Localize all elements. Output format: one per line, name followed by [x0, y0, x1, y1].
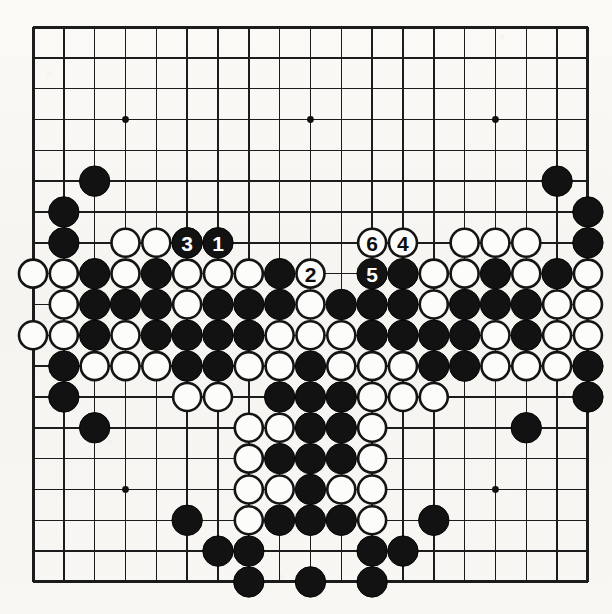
white-stone[interactable] — [327, 321, 355, 349]
white-stone[interactable] — [481, 229, 509, 257]
white-stone[interactable] — [50, 260, 78, 288]
white-stone[interactable] — [327, 352, 355, 380]
black-stone[interactable] — [295, 382, 325, 412]
white-stone[interactable] — [574, 321, 602, 349]
white-stone[interactable] — [481, 352, 509, 380]
white-stone[interactable] — [327, 475, 355, 503]
white-stone[interactable] — [358, 475, 386, 503]
white-stone[interactable] — [512, 352, 540, 380]
white-stone[interactable] — [420, 260, 448, 288]
black-stone[interactable] — [388, 289, 418, 319]
black-stone[interactable] — [264, 258, 294, 288]
white-stone[interactable] — [111, 321, 139, 349]
black-stone[interactable] — [480, 289, 510, 319]
black-stone[interactable] — [295, 443, 325, 473]
white-stone[interactable] — [235, 414, 263, 442]
white-stone[interactable] — [235, 506, 263, 534]
black-stone[interactable] — [264, 289, 294, 319]
white-stone[interactable] — [173, 260, 201, 288]
move-marker-6[interactable]: 6 — [358, 229, 386, 257]
white-stone[interactable] — [266, 475, 294, 503]
move-marker-4[interactable]: 4 — [389, 229, 417, 257]
white-stone[interactable] — [389, 383, 417, 411]
black-stone[interactable] — [511, 289, 541, 319]
black-stone[interactable] — [234, 536, 264, 566]
white-stone[interactable] — [358, 445, 386, 473]
black-stone[interactable] — [542, 166, 572, 196]
black-stone[interactable] — [172, 505, 202, 535]
black-stone[interactable] — [295, 413, 325, 443]
white-stone[interactable] — [543, 321, 571, 349]
black-stone[interactable] — [49, 197, 79, 227]
white-stone[interactable] — [19, 260, 47, 288]
black-stone[interactable] — [264, 505, 294, 535]
black-stone[interactable] — [203, 320, 233, 350]
white-stone[interactable] — [296, 321, 324, 349]
white-stone[interactable] — [235, 260, 263, 288]
white-stone[interactable] — [266, 321, 294, 349]
black-stone[interactable] — [295, 474, 325, 504]
black-stone[interactable] — [357, 536, 387, 566]
white-stone[interactable] — [389, 352, 417, 380]
move-marker-5[interactable]: 5 — [357, 258, 387, 288]
move-marker-1[interactable]: 1 — [203, 228, 233, 258]
black-stone[interactable] — [511, 413, 541, 443]
black-stone[interactable] — [79, 320, 109, 350]
black-stone[interactable] — [357, 289, 387, 319]
white-stone[interactable] — [173, 383, 201, 411]
black-stone[interactable] — [326, 413, 356, 443]
black-stone[interactable] — [264, 382, 294, 412]
white-stone[interactable] — [451, 260, 479, 288]
white-stone[interactable] — [574, 290, 602, 318]
white-stone[interactable] — [111, 352, 139, 380]
white-stone[interactable] — [512, 260, 540, 288]
white-stone[interactable] — [81, 352, 109, 380]
black-stone[interactable] — [388, 258, 418, 288]
white-stone[interactable] — [111, 260, 139, 288]
white-stone[interactable] — [296, 290, 324, 318]
black-stone[interactable] — [264, 443, 294, 473]
white-stone[interactable] — [266, 414, 294, 442]
white-stone[interactable] — [358, 383, 386, 411]
black-stone[interactable] — [234, 289, 264, 319]
white-stone[interactable] — [420, 290, 448, 318]
black-stone[interactable] — [295, 567, 325, 597]
black-stone[interactable] — [449, 351, 479, 381]
white-stone[interactable] — [235, 445, 263, 473]
black-stone[interactable] — [357, 567, 387, 597]
white-stone[interactable] — [574, 260, 602, 288]
black-stone[interactable] — [511, 320, 541, 350]
black-stone[interactable] — [480, 258, 510, 288]
white-stone[interactable] — [19, 321, 47, 349]
black-stone[interactable] — [141, 320, 171, 350]
black-stone[interactable] — [49, 382, 79, 412]
black-stone[interactable] — [326, 505, 356, 535]
white-stone[interactable] — [358, 414, 386, 442]
black-stone[interactable] — [573, 351, 603, 381]
white-stone[interactable] — [543, 290, 571, 318]
white-stone[interactable] — [142, 229, 170, 257]
black-stone[interactable] — [79, 258, 109, 288]
white-stone[interactable] — [512, 229, 540, 257]
white-stone[interactable] — [543, 352, 571, 380]
black-stone[interactable] — [295, 351, 325, 381]
black-stone[interactable] — [357, 320, 387, 350]
black-stone[interactable] — [203, 536, 233, 566]
white-stone[interactable] — [142, 352, 170, 380]
black-stone[interactable] — [172, 351, 202, 381]
black-stone[interactable] — [388, 320, 418, 350]
black-stone[interactable] — [449, 320, 479, 350]
black-stone[interactable] — [326, 289, 356, 319]
black-stone[interactable] — [542, 258, 572, 288]
white-stone[interactable] — [481, 321, 509, 349]
black-stone[interactable] — [203, 351, 233, 381]
black-stone[interactable] — [449, 289, 479, 319]
white-stone[interactable] — [266, 352, 294, 380]
black-stone[interactable] — [172, 320, 202, 350]
black-stone[interactable] — [49, 228, 79, 258]
black-stone[interactable] — [419, 351, 449, 381]
white-stone[interactable] — [204, 383, 232, 411]
black-stone[interactable] — [110, 289, 140, 319]
white-stone[interactable] — [358, 352, 386, 380]
white-stone[interactable] — [50, 321, 78, 349]
